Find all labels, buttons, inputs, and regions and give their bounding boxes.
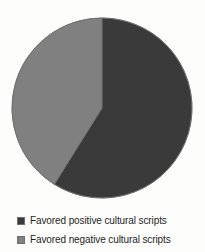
legend-label-positive: Favored positive cultural scripts bbox=[30, 215, 167, 226]
pie-chart-figure: Favored positive cultural scripts Favore… bbox=[0, 0, 205, 252]
pie-chart-svg bbox=[0, 0, 205, 210]
legend-item-negative[interactable]: Favored negative cultural scripts bbox=[17, 231, 205, 248]
chart-legend: Favored positive cultural scripts Favore… bbox=[0, 210, 205, 252]
legend-swatch-negative-icon bbox=[17, 236, 25, 244]
legend-swatch-positive-icon bbox=[17, 217, 25, 225]
legend-item-positive[interactable]: Favored positive cultural scripts bbox=[17, 212, 205, 229]
pie-chart-plot-area bbox=[0, 0, 205, 210]
legend-label-negative: Favored negative cultural scripts bbox=[30, 234, 171, 245]
